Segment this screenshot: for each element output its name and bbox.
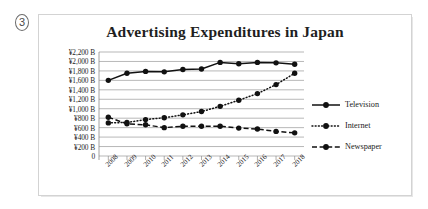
y-axis-tick-label: ¥800 B xyxy=(39,114,95,123)
y-axis-tick-label: ¥1,800 B xyxy=(39,66,95,75)
y-axis-tick-label: ¥1,000 B xyxy=(39,104,95,113)
legend-marker-icon xyxy=(311,142,341,152)
legend-item-internet[interactable]: Internet xyxy=(311,115,411,136)
chart-container: Advertising Expenditures in Japan ¥2,200… xyxy=(38,14,412,196)
y-axis-tick-label: ¥600 B xyxy=(39,123,95,132)
y-axis-tick-label: ¥200 B xyxy=(39,142,95,151)
legend-label: Internet xyxy=(341,121,370,130)
legend-label: Newspaper xyxy=(341,142,382,151)
legend-label: Television xyxy=(341,100,379,109)
legend-item-newspaper[interactable]: Newspaper xyxy=(311,136,411,157)
screenshot-root: 3 Advertising Expenditures in Japan ¥2,2… xyxy=(0,0,428,209)
chart-legend: TelevisionInternetNewspaper xyxy=(311,94,411,157)
figure-number-marker: 3 xyxy=(15,14,29,31)
y-axis-tick-label: ¥2,000 B xyxy=(39,57,95,66)
y-axis-tick-label: ¥1,600 B xyxy=(39,76,95,85)
legend-marker-icon xyxy=(311,100,341,110)
legend-marker-icon xyxy=(311,121,341,131)
y-axis-tick-label: ¥2,200 B xyxy=(39,48,95,57)
y-axis-tick-label: ¥1,400 B xyxy=(39,85,95,94)
y-axis-tick-label: 0 xyxy=(39,152,95,161)
y-axis-tick-label: ¥400 B xyxy=(39,133,95,142)
y-axis-tick-label: ¥1,200 B xyxy=(39,95,95,104)
legend-item-television[interactable]: Television xyxy=(311,94,411,115)
